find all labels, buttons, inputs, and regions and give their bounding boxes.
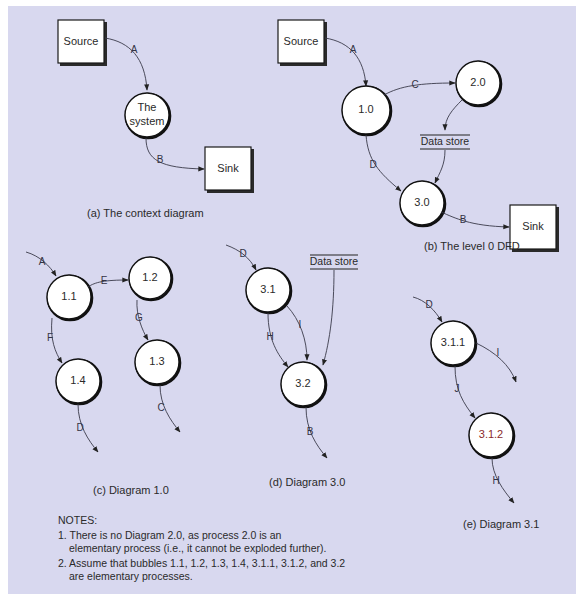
system-label-line2: system: [130, 115, 165, 127]
d1-flow-d-label: D: [76, 422, 83, 433]
process-3-1-label: 3.1: [260, 283, 275, 295]
d31-flow-d-label: D: [425, 299, 432, 310]
level0-source-box: Source: [278, 20, 327, 66]
d31-flow-i-label: I: [497, 347, 500, 358]
note-1-line2: elementary process (i.e., it cannot be e…: [69, 542, 326, 554]
context-flow-a-label: A: [131, 44, 138, 55]
process-1-0-label: 1.0: [358, 103, 373, 115]
level0-flow-c-label: C: [411, 79, 418, 90]
process-3-2-label: 3.2: [295, 377, 310, 389]
d3-flow-d-label: D: [239, 248, 246, 259]
process-1-3-label: 1.3: [149, 355, 164, 367]
notes-title: NOTES:: [58, 514, 97, 526]
d31-caption: (e) Diagram 3.1: [463, 518, 539, 530]
d3-flow-i-label: I: [299, 319, 302, 330]
note-2-line2: are elementary processes.: [69, 570, 193, 582]
d1-flow-c-label: C: [157, 402, 164, 413]
level0-flow-d-label: D: [369, 159, 376, 170]
process-3-2: 3.2: [281, 362, 326, 407]
process-1-0: 1.0: [342, 86, 391, 135]
context-caption: (a) The context diagram: [87, 207, 204, 219]
level0-data-store-label: Data store: [421, 135, 470, 147]
context-source-box: Source: [58, 20, 107, 66]
level0-sink-label: Sink: [522, 220, 544, 232]
level0-flow-b-label: B: [460, 214, 467, 225]
d1-flow-a-label: A: [39, 256, 46, 267]
process-1-1-label: 1.1: [61, 290, 76, 302]
context-sink-box: Sink: [205, 147, 254, 193]
process-3-1-2-label: 3.1.2: [479, 428, 503, 440]
process-3-1-1: 3.1.1: [431, 321, 476, 366]
d1-flow-g-label: G: [135, 312, 143, 323]
d31-flow-h-label: H: [492, 475, 499, 486]
d1-flow-e-label: E: [101, 275, 108, 286]
process-1-4: 1.4: [56, 359, 101, 404]
note-2-line1: 2. Assume that bubbles 1.1, 1.2, 1.3, 1.…: [58, 557, 345, 569]
note-1-line1: 1. There is no Diagram 2.0, as process 2…: [58, 529, 281, 541]
process-3-0: 3.0: [400, 181, 445, 226]
level0-caption: (b) The level 0 DFD: [424, 240, 520, 252]
d31-flow-j-label: J: [455, 383, 460, 394]
level0-flow-a-label: A: [350, 44, 357, 55]
d3-flow-h-label: H: [266, 331, 273, 342]
process-1-2-label: 1.2: [142, 271, 157, 283]
process-2-0-label: 2.0: [470, 76, 485, 88]
d3-caption: (d) Diagram 3.0: [269, 476, 345, 488]
dfd-figure: Source A The system B Sink (a) The conte…: [0, 0, 583, 601]
process-2-0: 2.0: [456, 61, 501, 106]
process-3-1: 3.1: [246, 268, 291, 313]
d1-flow-f-label: F: [47, 332, 53, 343]
process-3-0-label: 3.0: [414, 196, 429, 208]
process-3-1-2: 3.1.2: [469, 413, 514, 458]
context-source-label: Source: [64, 35, 99, 47]
d1-caption: (c) Diagram 1.0: [93, 484, 169, 496]
process-1-2: 1.2: [129, 257, 172, 300]
system-label-line1: The: [138, 101, 157, 113]
context-flow-b-label: B: [157, 154, 164, 165]
process-1-1: 1.1: [47, 275, 92, 320]
process-1-3: 1.3: [135, 340, 180, 385]
process-1-4-label: 1.4: [70, 374, 85, 386]
d3-flow-b-label: B: [307, 426, 314, 437]
context-system-bubble: The system: [125, 93, 170, 138]
context-sink-label: Sink: [217, 162, 239, 174]
d3-data-store-label: Data store: [310, 255, 359, 267]
level0-source-label: Source: [284, 35, 319, 47]
process-3-1-1-label: 3.1.1: [441, 336, 465, 348]
